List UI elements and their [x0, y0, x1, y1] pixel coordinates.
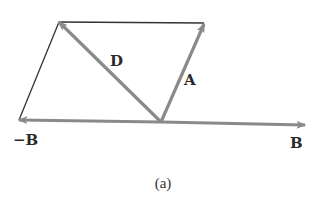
vector-neg-b-label: −B — [13, 131, 38, 149]
parallelogram-top-edge — [59, 22, 204, 23]
vector-d-arrow — [59, 22, 161, 122]
parallelogram-left-edge — [19, 22, 59, 120]
vector-b-arrow — [161, 122, 305, 125]
vector-a-label: A — [183, 71, 196, 89]
vector-a-arrow — [161, 24, 204, 122]
vector-neg-b-arrow — [19, 120, 161, 122]
figure-caption: (a) — [155, 175, 172, 192]
vector-b-label: B — [290, 134, 303, 152]
vector-diagram: D A −B B (a) — [0, 0, 323, 209]
vector-d-label: D — [110, 52, 123, 70]
